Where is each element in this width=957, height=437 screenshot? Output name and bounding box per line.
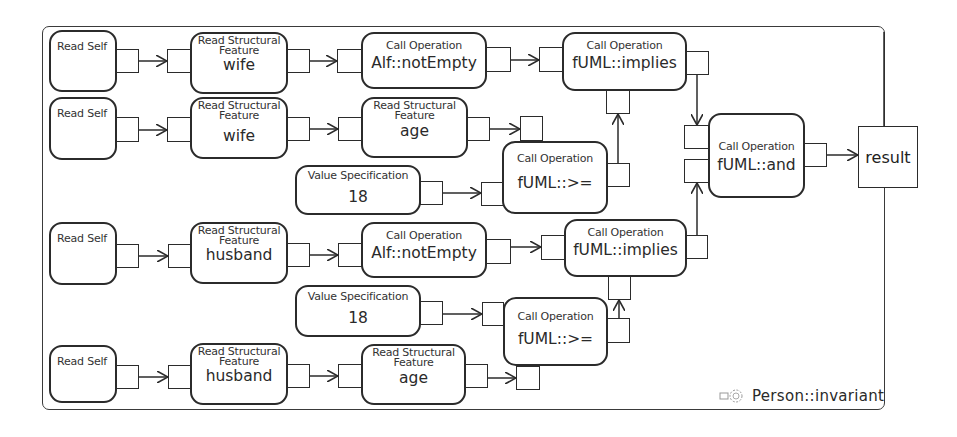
activity-diagram-canvas: result Read Self Read StructuralFeature …: [0, 0, 957, 437]
input-pin[interactable]: [338, 364, 362, 388]
output-pin[interactable]: [420, 181, 443, 205]
action-kind-label: Read StructuralFeature: [192, 226, 286, 246]
action-kind-label: Read StructuralFeature: [363, 348, 464, 368]
action-kind-label: Call Operation: [710, 141, 803, 152]
output-pin[interactable]: [467, 117, 490, 141]
output-pin[interactable]: [287, 243, 310, 267]
call-operation-implies-2[interactable]: Call Operation fUML::implies: [564, 219, 687, 277]
operation-name: fUML::implies: [566, 241, 685, 259]
action-kind-label: Call Operation: [564, 40, 685, 51]
input-pin[interactable]: [482, 302, 504, 326]
input-pin[interactable]: [168, 244, 191, 268]
read-structural-feature-wife-1[interactable]: Read StructuralFeature wife: [190, 32, 288, 94]
feature-name: wife: [192, 127, 286, 145]
operation-name: fUML::and: [710, 156, 803, 174]
input-pin[interactable]: [541, 235, 565, 260]
output-pin[interactable]: [686, 235, 708, 259]
read-structural-feature-husband-2[interactable]: Read StructuralFeature husband: [190, 343, 288, 405]
input-pin[interactable]: [481, 182, 504, 206]
input-pin[interactable]: [539, 47, 563, 72]
call-operation-gte-2[interactable]: Call Operation fUML::>=: [503, 297, 608, 366]
call-operation-notempty-1[interactable]: Call Operation Alf::notEmpty: [361, 32, 487, 89]
output-pin[interactable]: [287, 117, 310, 141]
operation-name: fUML::>=: [504, 174, 606, 192]
output-pin[interactable]: [804, 143, 827, 167]
action-kind-label: Read StructuralFeature: [192, 36, 286, 56]
value-specification-18-1[interactable]: Value Specification 18: [295, 165, 421, 215]
output-pin[interactable]: [116, 365, 139, 389]
read-self-action-4[interactable]: Read Self: [49, 345, 117, 403]
frame-name: Person::invariant: [752, 387, 884, 405]
read-self-action-2[interactable]: Read Self: [49, 97, 117, 160]
input-pin[interactable]: [520, 116, 543, 141]
output-pin[interactable]: [607, 163, 630, 187]
read-self-action-3[interactable]: Read Self: [49, 222, 117, 285]
output-pin[interactable]: [116, 117, 139, 142]
output-pin[interactable]: [686, 51, 709, 75]
call-operation-gte-1[interactable]: Call Operation fUML::>=: [502, 141, 608, 214]
value-specification-18-2[interactable]: Value Specification 18: [295, 285, 421, 337]
result-parameter-node[interactable]: result: [858, 126, 918, 188]
action-kind-label: Value Specification: [297, 170, 419, 181]
operation-name: Alf::notEmpty: [363, 244, 485, 262]
feature-name: husband: [192, 246, 286, 264]
output-pin[interactable]: [116, 49, 139, 73]
input-pin[interactable]: [168, 365, 191, 389]
read-structural-feature-wife-2[interactable]: Read StructuralFeature wife: [190, 97, 288, 159]
action-kind-label: Read StructuralFeature: [192, 101, 286, 121]
action-kind-label: Read Self: [51, 108, 115, 119]
action-kind-label: Read StructuralFeature: [363, 101, 466, 121]
action-kind-label: Call Operation: [566, 227, 685, 238]
input-pin[interactable]: [684, 125, 709, 149]
call-operation-notempty-2[interactable]: Call Operation Alf::notEmpty: [361, 222, 487, 278]
output-pin[interactable]: [486, 47, 511, 72]
action-kind-label: Read StructuralFeature: [192, 347, 286, 367]
action-kind-label: Value Specification: [297, 291, 419, 302]
read-self-action-1[interactable]: Read Self: [49, 30, 117, 92]
call-operation-and[interactable]: Call Operation fUML::and: [708, 113, 805, 198]
action-kind-label: Read Self: [51, 41, 115, 52]
operation-name: fUML::>=: [505, 330, 606, 348]
input-pin[interactable]: [516, 366, 540, 390]
action-kind-label: Call Operation: [504, 153, 606, 164]
output-pin[interactable]: [287, 364, 310, 388]
action-kind-label: Call Operation: [363, 230, 485, 241]
input-pin[interactable]: [338, 243, 362, 267]
input-pin[interactable]: [606, 90, 630, 114]
frame-label: Person::invariant: [719, 387, 884, 405]
output-pin[interactable]: [465, 364, 488, 388]
output-pin[interactable]: [486, 239, 511, 264]
output-pin[interactable]: [287, 49, 310, 73]
literal-value: 18: [297, 188, 419, 206]
input-pin[interactable]: [167, 117, 191, 142]
input-pin[interactable]: [608, 276, 631, 300]
read-structural-feature-husband-1[interactable]: Read StructuralFeature husband: [190, 222, 288, 284]
call-operation-implies-1[interactable]: Call Operation fUML::implies: [562, 32, 687, 91]
read-structural-feature-age-2[interactable]: Read StructuralFeature age: [361, 344, 466, 405]
literal-value: 18: [297, 309, 419, 327]
action-kind-label: Call Operation: [363, 40, 485, 51]
input-pin[interactable]: [338, 117, 362, 141]
action-kind-label: Read Self: [51, 356, 115, 367]
result-label: result: [865, 148, 910, 167]
feature-name: husband: [192, 367, 286, 385]
output-pin[interactable]: [420, 301, 443, 325]
output-pin[interactable]: [116, 244, 139, 268]
operation-name: fUML::implies: [564, 54, 685, 72]
output-pin[interactable]: [607, 318, 630, 343]
feature-name: age: [363, 369, 464, 387]
input-pin[interactable]: [167, 49, 191, 73]
input-pin[interactable]: [337, 49, 362, 73]
input-pin[interactable]: [684, 159, 709, 183]
operation-name: Alf::notEmpty: [363, 54, 485, 72]
action-kind-label: Call Operation: [505, 311, 606, 322]
read-structural-feature-age-1[interactable]: Read StructuralFeature age: [361, 97, 468, 158]
feature-name: age: [363, 122, 466, 140]
feature-name: wife: [192, 56, 286, 74]
activity-icon: [719, 388, 749, 404]
action-kind-label: Read Self: [51, 233, 115, 244]
